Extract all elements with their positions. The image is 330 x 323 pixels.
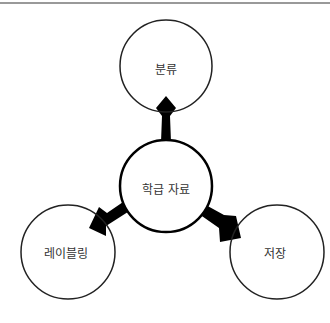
arrow-to-top (156, 96, 176, 142)
node-top-label: 분류 (155, 63, 177, 77)
node-bottom-right-label: 저장 (264, 247, 286, 261)
concept-diagram: 분류 학급 자료 레이블링 저장 (0, 0, 330, 323)
node-bottom-right: 저장 (230, 205, 324, 299)
node-center-label: 학급 자료 (142, 183, 190, 197)
node-bottom-left: 레이블링 (21, 205, 115, 299)
node-center: 학급 자료 (120, 140, 212, 232)
node-bottom-left-label: 레이블링 (44, 247, 88, 261)
